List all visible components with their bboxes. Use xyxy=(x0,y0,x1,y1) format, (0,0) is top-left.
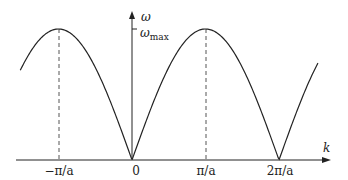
tick-label-neg-pi: −π/a xyxy=(44,164,73,178)
dispersion-curve xyxy=(20,29,318,159)
y-axis-arrow-icon xyxy=(129,11,135,19)
x-axis-label: k xyxy=(323,141,330,155)
tick-label-zero: 0 xyxy=(132,164,140,178)
omega-max-label: ωmax xyxy=(140,26,169,42)
y-axis-label: ω xyxy=(141,10,151,24)
x-axis-arrow-icon xyxy=(322,157,331,163)
tick-label-2pi: 2π/a xyxy=(267,164,294,178)
tick-label-pi: π/a xyxy=(196,164,215,178)
dispersion-diagram: ω ωmax k −π/a 0 π/a 2π/a xyxy=(0,0,348,180)
